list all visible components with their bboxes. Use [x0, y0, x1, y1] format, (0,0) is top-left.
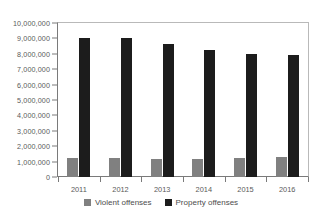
legend-label: Property offenses	[176, 198, 239, 207]
y-axis-tick-label: 4,000,000	[17, 111, 50, 120]
bar-violent-offenses-2012	[109, 158, 120, 177]
legend-item-violent-offenses[interactable]: Violent offenses	[84, 198, 152, 207]
y-axis-tick-mark	[52, 177, 57, 178]
bar-violent-offenses-2015	[234, 158, 245, 177]
y-axis-tick-mark	[52, 23, 57, 24]
x-axis-tick-mark	[58, 177, 59, 182]
legend-item-property-offenses[interactable]: Property offenses	[165, 198, 239, 207]
chart-legend: Violent offensesProperty offenses	[0, 198, 322, 207]
x-axis-tick-mark	[308, 177, 309, 182]
x-axis-tick-mark	[141, 177, 142, 182]
bar-violent-offenses-2016	[276, 157, 287, 177]
y-axis-tick-mark	[52, 161, 57, 162]
bar-group	[183, 23, 225, 177]
y-axis-tick-mark	[52, 53, 57, 54]
legend-swatch-icon	[165, 199, 172, 206]
bar-property-offenses-2015	[246, 54, 257, 178]
y-axis-tick-mark	[52, 115, 57, 116]
x-axis-tick-label: 2016	[279, 185, 295, 194]
x-axis-tick-mark	[183, 177, 184, 182]
x-axis-tick-mark	[225, 177, 226, 182]
bar-group	[266, 23, 308, 177]
y-axis-tick-label: 9,000,000	[17, 34, 50, 43]
x-axis-tick-mark	[100, 177, 101, 182]
y-axis-tick-mark	[52, 100, 57, 101]
bar-group	[141, 23, 183, 177]
y-axis-tick-label: 7,000,000	[17, 65, 50, 74]
y-axis-tick-label: 10,000,000	[13, 19, 50, 28]
y-axis-tick-mark	[52, 146, 57, 147]
bar-violent-offenses-2014	[192, 159, 203, 177]
bar-chart: 01,000,0002,000,0003,000,0004,000,0005,0…	[0, 0, 322, 221]
bar-group	[225, 23, 267, 177]
y-axis-tick-label: 0	[46, 173, 50, 182]
x-axis: 201120122013201420152016	[58, 177, 309, 199]
bar-group	[58, 23, 100, 177]
x-axis-tick-label: 2015	[237, 185, 253, 194]
x-axis-tick-label: 2012	[112, 185, 128, 194]
bar-violent-offenses-2013	[151, 159, 162, 177]
y-axis-tick-label: 6,000,000	[17, 80, 50, 89]
y-axis-tick-label: 8,000,000	[17, 49, 50, 58]
y-axis-tick-label: 3,000,000	[17, 126, 50, 135]
bar-property-offenses-2011	[79, 38, 90, 177]
bar-property-offenses-2014	[204, 50, 215, 178]
y-axis-tick-label: 5,000,000	[17, 96, 50, 105]
x-axis-tick-label: 2014	[196, 185, 212, 194]
bar-groups	[58, 23, 308, 177]
y-axis-tick-mark	[52, 84, 57, 85]
bar-group	[100, 23, 142, 177]
legend-label: Violent offenses	[95, 198, 152, 207]
x-axis-tick-label: 2013	[154, 185, 170, 194]
x-axis-tick-mark	[266, 177, 267, 182]
y-axis-tick-label: 2,000,000	[17, 142, 50, 151]
y-axis-tick-label: 1,000,000	[17, 157, 50, 166]
y-axis-tick-mark	[52, 69, 57, 70]
legend-swatch-icon	[84, 199, 91, 206]
y-axis-tick-mark	[52, 130, 57, 131]
bar-violent-offenses-2011	[67, 158, 78, 177]
bar-property-offenses-2016	[288, 55, 299, 177]
bar-property-offenses-2012	[121, 38, 132, 177]
y-axis-tick-mark	[52, 38, 57, 39]
bar-property-offenses-2013	[163, 44, 174, 177]
x-axis-tick-label: 2011	[71, 185, 87, 194]
y-axis: 01,000,0002,000,0003,000,0004,000,0005,0…	[0, 22, 57, 177]
